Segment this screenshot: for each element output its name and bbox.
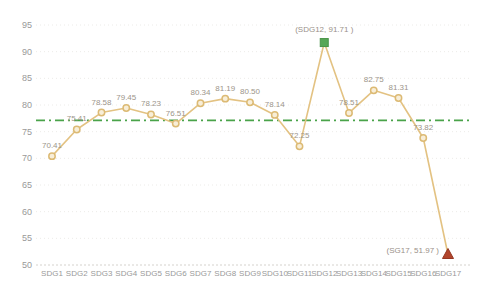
x-tick-label: SDG6 [165,269,187,278]
data-point-marker[interactable] [49,153,55,159]
data-point-label: 80.34 [190,88,211,97]
data-point-marker[interactable] [272,112,278,118]
data-point-label: 78.51 [339,98,360,107]
data-point-marker[interactable] [395,95,401,101]
data-point-label: 78.14 [265,100,286,109]
x-tick-label: SDG3 [91,269,113,278]
x-tick-label: SDG8 [214,269,236,278]
data-point-label: 80.50 [240,87,261,96]
y-tick-label: 70 [22,153,32,163]
min-annotation-label: (SG17, 51.97 ) [387,246,440,255]
x-tick-label: SDG14 [361,269,388,278]
data-point-label: 73.82 [413,123,434,132]
data-point-marker[interactable] [98,109,104,115]
data-point-label: 70.41 [42,141,63,150]
x-tick-label: SDG16 [410,269,437,278]
x-tick-label: SDG12 [311,269,338,278]
data-point-marker[interactable] [123,105,129,111]
data-point-marker[interactable] [197,100,203,106]
y-tick-label: 75 [22,127,32,137]
x-tick-label: SDG2 [66,269,88,278]
x-tick-label: SDG9 [239,269,261,278]
y-tick-label: 65 [22,180,32,190]
y-tick-label: 90 [22,47,32,57]
max-annotation-label: (SDG12, 91.71 ) [295,25,354,34]
data-point-label: 75.41 [67,114,88,123]
min-marker[interactable] [443,248,454,258]
x-tick-label: SDG15 [385,269,412,278]
x-tick-label: SDG7 [190,269,212,278]
data-point-marker[interactable] [296,143,302,149]
data-point-marker[interactable] [222,95,228,101]
data-point-marker[interactable] [74,126,80,132]
data-point-label: 81.31 [388,83,409,92]
data-point-marker[interactable] [420,135,426,141]
data-point-marker[interactable] [173,120,179,126]
y-tick-label: 60 [22,207,32,217]
data-point-marker[interactable] [148,111,154,117]
data-point-marker[interactable] [371,87,377,93]
data-point-label: 78.58 [91,98,112,107]
data-point-marker[interactable] [346,110,352,116]
series-line [52,43,448,255]
max-marker[interactable] [320,39,328,47]
data-point-marker[interactable] [247,99,253,105]
y-tick-label: 85 [22,73,32,83]
x-tick-label: SDG1 [41,269,63,278]
y-tick-label: 50 [22,260,32,270]
x-tick-label: SDG4 [115,269,137,278]
y-tick-label: 95 [22,20,32,30]
y-tick-label: 55 [22,233,32,243]
data-point-label: 78.23 [141,99,162,108]
x-tick-label: SDG10 [262,269,289,278]
data-point-label: 79.45 [116,93,137,102]
x-tick-label: SDG11 [287,269,313,278]
x-tick-label: SDG13 [336,269,363,278]
sdg-line-chart: 50556065707580859095SDG1SDG2SDG3SDG4SDG5… [0,0,482,291]
data-point-label: 76.51 [166,109,187,118]
data-point-label: 82.75 [364,75,385,84]
data-point-label: 72.25 [289,131,310,140]
x-tick-label: SDG17 [435,269,462,278]
data-point-label: 81.19 [215,84,236,93]
x-tick-label: SDG5 [140,269,162,278]
sdg-line-chart-svg: 50556065707580859095SDG1SDG2SDG3SDG4SDG5… [0,0,482,291]
y-tick-label: 80 [22,100,32,110]
